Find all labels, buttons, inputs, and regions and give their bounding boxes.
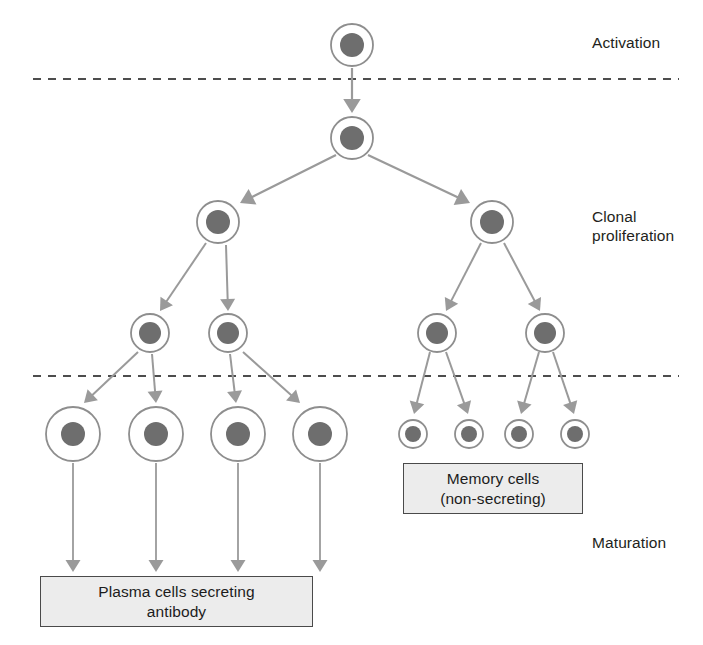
clone-left-a-hitbox <box>131 314 169 352</box>
plasma-cell-4-hitbox <box>293 407 347 461</box>
stage-label-maturation: Maturation <box>592 533 666 552</box>
memory-cell-3-hitbox <box>505 420 533 448</box>
arrow-plasma3-to-box <box>231 463 246 572</box>
arrow-ra-to-memory1 <box>410 352 430 414</box>
memory-cells-box: Memory cells (non-secreting) <box>403 463 583 514</box>
arrow-activation <box>343 68 361 113</box>
arrow-split-left <box>240 155 336 205</box>
diagram-canvas: Activation Clonal proliferation Maturati… <box>0 0 703 645</box>
activated-b-cell-hitbox <box>331 24 373 66</box>
arrow-la-to-plasma1 <box>84 352 138 403</box>
clone-right-a-hitbox <box>418 314 456 352</box>
arrow-left-to-a <box>160 243 206 311</box>
clone-right-hitbox <box>471 201 513 243</box>
plasma-cell-2-hitbox <box>129 407 183 461</box>
memory-cell-1-hitbox <box>399 420 427 448</box>
plasma-cell-3-hitbox <box>211 407 265 461</box>
stage-label-activation: Activation <box>592 33 660 52</box>
plasma-cells-box: Plasma cells secreting antibody <box>40 576 313 627</box>
memory-cell-2-hitbox <box>455 420 483 448</box>
cell-layer <box>46 24 589 461</box>
arrow-plasma1-to-box <box>66 463 81 572</box>
plasma-cell-1-hitbox <box>46 407 100 461</box>
memory-cell-4-hitbox <box>561 420 589 448</box>
arrow-lb-to-plasma3 <box>227 354 242 403</box>
arrow-lb-to-plasma4 <box>243 352 300 403</box>
arrow-rb-to-memory4 <box>553 352 577 414</box>
arrow-ra-to-memory2 <box>446 352 471 414</box>
arrow-split-right <box>368 155 470 205</box>
arrow-right-to-b <box>504 243 541 311</box>
arrow-la-to-plasma2 <box>148 354 163 403</box>
clone-right-b-hitbox <box>526 314 564 352</box>
clone-left-hitbox <box>197 201 239 243</box>
clone-left-b-hitbox <box>209 314 247 352</box>
arrow-right-to-a <box>445 243 481 311</box>
arrow-plasma4-to-box <box>313 463 328 572</box>
arrow-rb-to-memory3 <box>517 352 539 414</box>
stage-label-clonal-proliferation: Clonal proliferation <box>592 207 674 245</box>
arrow-left-to-b <box>220 245 235 311</box>
dividing-b-cell-hitbox <box>331 117 373 159</box>
arrow-plasma2-to-box <box>149 463 164 572</box>
